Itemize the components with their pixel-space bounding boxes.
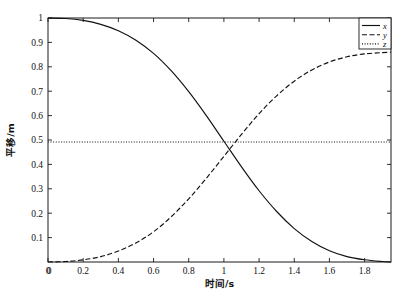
y-tick-label: 0.2 — [31, 209, 43, 219]
y-tick-label: 0.3 — [31, 184, 43, 194]
x-tick-label: 1.8 — [359, 266, 371, 276]
x-axis-title: 时间/s — [205, 278, 234, 289]
y-tick-label: 0.1 — [31, 233, 43, 243]
series-line-y — [48, 52, 391, 262]
y-tick-label: 0.6 — [31, 111, 43, 121]
x-tick-label: 1.2 — [253, 266, 265, 276]
y-tick-label: 0.5 — [31, 135, 43, 145]
data-curves — [48, 18, 391, 262]
chart-legend: xyz — [359, 18, 391, 49]
x-axis-tick-labels: 00.20.40.60.811.21.41.61.80 — [46, 266, 371, 276]
y-tick-label: 0.4 — [31, 160, 43, 170]
x-tick-label: 0.8 — [183, 266, 195, 276]
x-tick-label: 1 — [222, 266, 227, 276]
y-tick-label: 0.9 — [31, 38, 43, 48]
chart-figure: 00.20.40.60.811.21.41.61.80 0.10.20.30.4… — [0, 0, 398, 299]
x-tick-label: 0.2 — [77, 266, 89, 276]
x-tick-label: 0.6 — [148, 266, 160, 276]
y-axis-tick-labels: 0.10.20.30.40.50.60.70.80.91 — [31, 13, 43, 243]
x-tick-label: 1.4 — [288, 266, 300, 276]
axis-tickmarks — [48, 18, 391, 262]
y-axis-title: 平移/m — [5, 123, 16, 156]
plot-frame — [48, 18, 391, 262]
y-tick-label: 0.7 — [31, 87, 43, 97]
y-tick-label: 1 — [38, 13, 43, 23]
x-tick-label: 1.6 — [323, 266, 335, 276]
y-tick-label: 0.8 — [31, 62, 43, 72]
origin-tick-label: 0 — [47, 266, 52, 276]
series-line-x — [48, 18, 391, 262]
plot-canvas: 00.20.40.60.811.21.41.61.80 0.10.20.30.4… — [0, 0, 398, 299]
legend-label-z: z — [382, 39, 387, 49]
x-tick-label: 0.4 — [112, 266, 124, 276]
